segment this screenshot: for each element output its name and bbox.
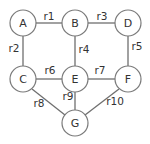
edge-r10: r10 (85, 89, 124, 115)
edge-r3: r3 (88, 10, 115, 23)
node-label: F (125, 73, 131, 86)
edge-r4: r4 (75, 36, 90, 66)
edge-label: r7 (95, 64, 106, 76)
edge-r7: r7 (88, 64, 115, 79)
node-label: D (124, 17, 132, 30)
edge-label: r5 (132, 40, 143, 52)
graph-diagram: r1 r2 r3 r4 r5 r6 r7 r8 (0, 0, 150, 144)
edge-r9: r9 (63, 90, 76, 110)
node-label: A (19, 17, 27, 30)
node-label: B (71, 17, 79, 30)
edge-r5: r5 (128, 36, 143, 66)
edge-r6: r6 (36, 64, 62, 79)
node-b: B (62, 10, 88, 36)
edge-label: r10 (106, 95, 124, 107)
edge-r1: r1 (36, 10, 62, 23)
edge-label: r2 (9, 42, 20, 54)
node-f: F (115, 66, 141, 92)
node-g: G (62, 110, 88, 136)
node-a: A (10, 10, 36, 36)
edge-label: r1 (44, 10, 55, 22)
node-d: D (115, 10, 141, 36)
node-label: G (71, 117, 80, 130)
nodes: A B D C E F G (10, 10, 141, 136)
node-label: E (72, 73, 79, 86)
node-label: C (19, 73, 27, 86)
edge-label: r3 (97, 10, 108, 22)
edge-r8: r8 (32, 89, 65, 115)
edge-label: r8 (34, 97, 45, 109)
edge-label: r6 (45, 64, 56, 76)
node-c: C (10, 66, 36, 92)
edge-r2: r2 (9, 36, 24, 66)
node-e: E (62, 66, 88, 92)
edge-label: r4 (79, 43, 90, 55)
